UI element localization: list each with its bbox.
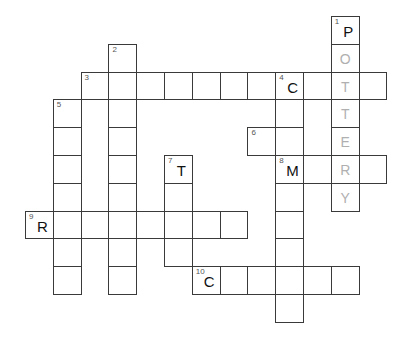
solution-letter: T bbox=[332, 107, 359, 121]
crossword-cell[interactable] bbox=[53, 155, 82, 184]
crossword-cell[interactable]: O bbox=[331, 44, 360, 73]
solution-letter: R bbox=[332, 163, 359, 177]
crossword-cell[interactable]: 1P bbox=[331, 16, 360, 45]
clue-number: 5 bbox=[57, 101, 61, 109]
crossword-cell[interactable] bbox=[220, 211, 249, 240]
given-letter: C bbox=[199, 274, 220, 289]
crossword-cell[interactable] bbox=[164, 238, 193, 267]
crossword-cell[interactable] bbox=[303, 266, 332, 295]
crossword-cell[interactable] bbox=[275, 183, 304, 212]
crossword-cell[interactable] bbox=[136, 211, 165, 240]
crossword-cell[interactable] bbox=[192, 72, 221, 101]
crossword-cell[interactable] bbox=[275, 294, 304, 323]
crossword-cell[interactable] bbox=[164, 183, 193, 212]
crossword-cell[interactable] bbox=[108, 238, 137, 267]
crossword-cell[interactable]: 2 bbox=[108, 44, 137, 73]
crossword-cell[interactable] bbox=[220, 72, 249, 101]
given-letter: M bbox=[282, 163, 303, 178]
crossword-cell[interactable] bbox=[275, 127, 304, 156]
crossword-cell[interactable] bbox=[81, 211, 110, 240]
crossword-cell[interactable] bbox=[192, 211, 221, 240]
crossword-cell[interactable]: 7T bbox=[164, 155, 193, 184]
crossword-cell[interactable]: 6 bbox=[247, 127, 276, 156]
crossword-cell[interactable] bbox=[136, 72, 165, 101]
crossword-cell[interactable] bbox=[275, 99, 304, 128]
given-letter: P bbox=[338, 24, 359, 39]
crossword-cell[interactable]: T bbox=[331, 72, 360, 101]
crossword-cell[interactable] bbox=[108, 72, 137, 101]
crossword-cell[interactable] bbox=[53, 127, 82, 156]
crossword-cell[interactable] bbox=[108, 266, 137, 295]
solution-letter: O bbox=[332, 52, 359, 66]
crossword-cell[interactable] bbox=[359, 72, 388, 101]
crossword-cell[interactable] bbox=[53, 238, 82, 267]
crossword-cell[interactable] bbox=[108, 127, 137, 156]
crossword-cell[interactable] bbox=[303, 72, 332, 101]
clue-number: 2 bbox=[112, 46, 116, 54]
crossword-cell[interactable]: 3 bbox=[81, 72, 110, 101]
crossword-cell[interactable] bbox=[108, 183, 137, 212]
crossword-cell[interactable]: E bbox=[331, 127, 360, 156]
crossword-cell[interactable] bbox=[108, 211, 137, 240]
given-letter: C bbox=[282, 80, 303, 95]
clue-number: 3 bbox=[85, 74, 89, 82]
crossword-cell[interactable] bbox=[247, 266, 276, 295]
clue-number: 6 bbox=[251, 129, 255, 137]
crossword-cell[interactable]: 8M bbox=[275, 155, 304, 184]
crossword-cell[interactable] bbox=[303, 155, 332, 184]
crossword-cell[interactable]: 9R bbox=[25, 211, 54, 240]
solution-letter: T bbox=[332, 80, 359, 94]
crossword-cell[interactable] bbox=[53, 266, 82, 295]
given-letter: T bbox=[171, 163, 192, 178]
crossword-cell[interactable] bbox=[247, 72, 276, 101]
given-letter: R bbox=[32, 219, 53, 234]
crossword-cell[interactable] bbox=[275, 211, 304, 240]
crossword-cell[interactable] bbox=[220, 266, 249, 295]
solution-letter: Y bbox=[332, 191, 359, 205]
crossword-cell[interactable] bbox=[164, 72, 193, 101]
crossword-cell[interactable]: 5 bbox=[53, 99, 82, 128]
crossword-cell[interactable]: T bbox=[331, 99, 360, 128]
crossword-cell[interactable]: 10C bbox=[192, 266, 221, 295]
crossword-cell[interactable] bbox=[53, 211, 82, 240]
crossword-cell[interactable] bbox=[108, 155, 137, 184]
crossword-cell[interactable] bbox=[164, 211, 193, 240]
crossword-cell[interactable] bbox=[53, 183, 82, 212]
crossword-grid: 1POTTERY234C8M567T9R10C bbox=[0, 0, 401, 342]
crossword-cell[interactable] bbox=[275, 238, 304, 267]
crossword-cell[interactable] bbox=[108, 99, 137, 128]
crossword-cell[interactable] bbox=[359, 155, 388, 184]
crossword-cell[interactable] bbox=[275, 266, 304, 295]
crossword-cell[interactable]: 4C bbox=[275, 72, 304, 101]
crossword-cell[interactable]: Y bbox=[331, 183, 360, 212]
crossword-cell[interactable] bbox=[331, 266, 360, 295]
crossword-cell[interactable]: R bbox=[331, 155, 360, 184]
solution-letter: E bbox=[332, 135, 359, 149]
